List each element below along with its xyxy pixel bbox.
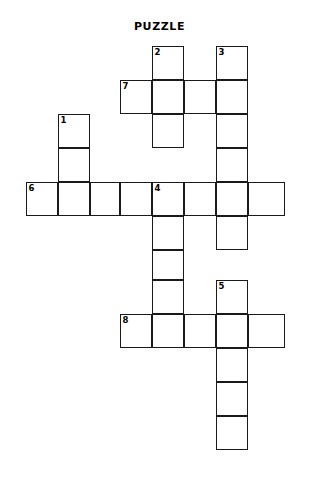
crossword-cell[interactable] xyxy=(216,80,248,114)
crossword-cell[interactable] xyxy=(216,114,248,148)
cell-number-5: 5 xyxy=(219,281,225,291)
crossword-cell[interactable] xyxy=(184,314,216,348)
crossword-cell[interactable] xyxy=(58,182,90,216)
crossword-cell[interactable] xyxy=(120,182,152,216)
cell-number-8: 8 xyxy=(123,315,129,325)
crossword-cell[interactable] xyxy=(152,216,184,250)
crossword-cell-1[interactable]: 1 xyxy=(58,114,90,148)
cell-number-4: 4 xyxy=(155,183,161,193)
cell-number-3: 3 xyxy=(219,47,225,57)
crossword-cell[interactable] xyxy=(184,182,216,216)
cell-number-7: 7 xyxy=(123,81,129,91)
crossword-cell-8[interactable]: 8 xyxy=(120,314,152,348)
crossword-cell[interactable] xyxy=(248,182,285,216)
crossword-cell[interactable] xyxy=(152,80,184,114)
crossword-cell[interactable] xyxy=(216,148,248,182)
crossword-cell-7[interactable]: 7 xyxy=(120,80,152,114)
crossword-cell[interactable] xyxy=(152,250,184,280)
cell-number-6: 6 xyxy=(29,183,35,193)
crossword-cell[interactable] xyxy=(216,216,248,250)
crossword-cell[interactable] xyxy=(216,348,248,382)
crossword-cell[interactable] xyxy=(184,80,216,114)
crossword-cell-5[interactable]: 5 xyxy=(216,280,248,314)
crossword-cell-2[interactable]: 2 xyxy=(152,46,184,80)
crossword-cell[interactable] xyxy=(152,114,184,148)
crossword-cell[interactable] xyxy=(216,182,248,216)
crossword-cell[interactable] xyxy=(216,314,248,348)
crossword-cell[interactable] xyxy=(216,416,248,450)
crossword-cell-4[interactable]: 4 xyxy=(152,182,184,216)
crossword-grid[interactable]: 23716458 xyxy=(0,0,319,477)
crossword-cell[interactable] xyxy=(248,314,285,348)
crossword-cell-3[interactable]: 3 xyxy=(216,46,248,80)
cell-number-1: 1 xyxy=(61,115,67,125)
crossword-cell[interactable] xyxy=(90,182,120,216)
crossword-puzzle: PUZZLE 23716458 xyxy=(0,0,319,477)
cell-number-2: 2 xyxy=(155,47,161,57)
crossword-cell[interactable] xyxy=(216,382,248,416)
crossword-cell[interactable] xyxy=(152,280,184,314)
crossword-cell[interactable] xyxy=(152,314,184,348)
crossword-cell[interactable] xyxy=(58,148,90,182)
crossword-cell-6[interactable]: 6 xyxy=(26,182,58,216)
